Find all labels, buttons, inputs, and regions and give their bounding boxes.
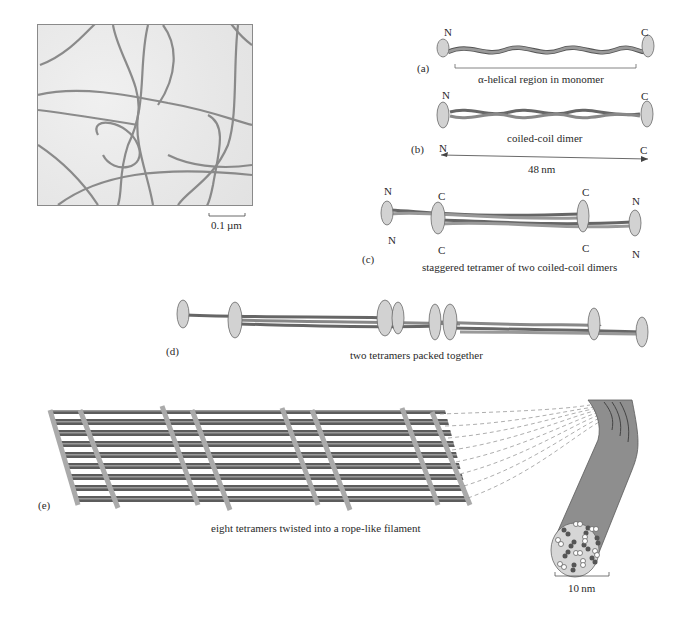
eight-tetramers-drawing xyxy=(0,0,682,629)
filament-scale-label: 10 nm xyxy=(568,582,595,594)
panel-label-e: (e) xyxy=(38,499,50,511)
caption-e: eight tetramers twisted into a rope-like… xyxy=(211,522,421,534)
